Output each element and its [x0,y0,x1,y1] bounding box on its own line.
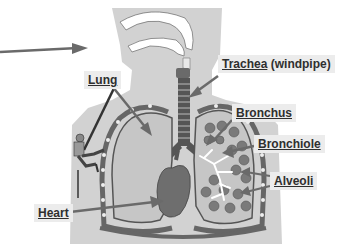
label-alveoli-text: Alveoli [274,174,313,188]
label-heart: Heart [34,204,73,222]
label-bronchiole-text: Bronchiole [258,137,321,151]
label-trachea: Trachea (windpipe) [218,55,335,73]
label-trachea-text: Trachea [222,57,267,71]
label-trachea-note: (windpipe) [271,57,331,71]
label-bronchiole: Bronchiole [254,135,325,153]
label-bronchus-text: Bronchus [236,106,292,120]
label-bronchus: Bronchus [232,104,296,122]
label-alveoli: Alveoli [270,172,317,190]
label-heart-text: Heart [38,206,69,220]
label-lung: Lung [84,71,121,89]
label-lung-text: Lung [88,73,117,87]
